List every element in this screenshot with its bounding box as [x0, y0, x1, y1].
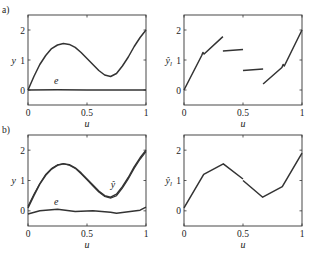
annotation: ŷ [110, 179, 116, 190]
y-tick-label: 2 [176, 146, 181, 156]
figure: 00.51012uya)e00.51012uŷl00.51012uyb)eŷ00… [0, 0, 311, 259]
y-tick-label: 2 [20, 26, 25, 36]
axes-frame [28, 15, 146, 105]
y-tick-label: 0 [176, 86, 181, 96]
x-tick-label: 0.5 [237, 229, 249, 239]
x-tick-label: 0 [182, 108, 187, 118]
y-tick-label: 1 [176, 176, 181, 186]
y-tick-label: 2 [20, 146, 25, 156]
segment [263, 30, 302, 84]
x-axis-label: u [241, 118, 246, 129]
y-axis-label: ŷl [165, 175, 172, 188]
x-tick-label: 1 [144, 229, 149, 239]
axes-frame [184, 15, 302, 105]
x-tick-label: 0 [26, 229, 31, 239]
y-tick-label: 0 [20, 86, 25, 96]
chart-panel-b-left: 00.51012uyb)eŷ [2, 125, 149, 250]
x-tick-label: 1 [144, 108, 149, 118]
chart-panel-b-right: 00.51012uŷl [165, 135, 305, 250]
segment [184, 37, 223, 90]
x-axis-label: u [241, 239, 246, 250]
x-axis-label: u [85, 239, 90, 250]
y-tick-label: 0 [176, 206, 181, 216]
annotation: e [54, 196, 59, 207]
y-axis-label: ŷl [165, 55, 172, 68]
x-tick-label: 0.5 [237, 108, 249, 118]
y-tick-label: 1 [20, 176, 25, 186]
x-tick-label: 1 [300, 229, 305, 239]
y-tick-label: 1 [176, 56, 181, 66]
segment [223, 50, 243, 52]
y-tick-label: 1 [20, 56, 25, 66]
chart-panel-a-right: 00.51012uŷl [165, 15, 305, 129]
panel-label: b) [2, 125, 10, 136]
segment [184, 164, 243, 208]
y-axis-label: y [11, 55, 17, 66]
segment [243, 69, 263, 71]
x-tick-label: 1 [300, 108, 305, 118]
annotation: e [54, 75, 59, 86]
panel-label: a) [2, 5, 9, 16]
x-tick-label: 0.5 [81, 108, 93, 118]
y-axis-label: y [11, 175, 17, 186]
x-axis-label: u [85, 118, 90, 129]
x-tick-label: 0 [182, 229, 187, 239]
segment [243, 153, 302, 197]
x-tick-label: 0 [26, 108, 31, 118]
x-tick-label: 0.5 [81, 229, 93, 239]
y-tick-label: 2 [176, 26, 181, 36]
series-e [28, 207, 146, 214]
series-y [28, 30, 146, 90]
chart-panel-a-left: 00.51012uya)e [2, 5, 149, 129]
y-tick-label: 0 [20, 206, 25, 216]
